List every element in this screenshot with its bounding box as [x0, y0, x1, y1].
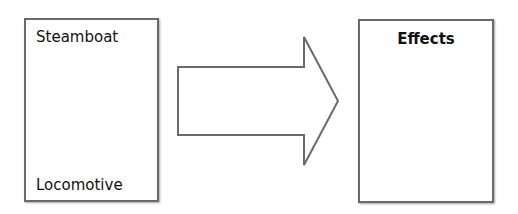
effects-box: Effects [358, 19, 494, 203]
effects-title: Effects [360, 30, 492, 48]
